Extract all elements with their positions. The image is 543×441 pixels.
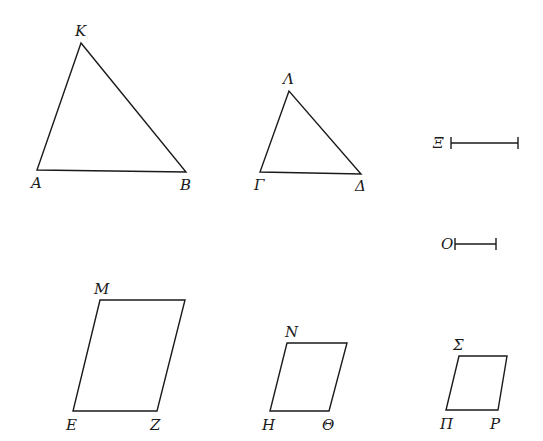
triangle-gamma-lambda-delta-outline [260, 91, 361, 174]
parallelogram-emz: M E Z [65, 280, 185, 434]
vertex-label-sigma: Σ [452, 336, 464, 354]
parallelogram-h-n-theta-outline [270, 343, 347, 411]
vertex-label-h: H [261, 416, 276, 434]
geometry-diagram: K A B Λ Γ Δ Ξ O M E Z N H Θ Σ Π P [0, 0, 543, 441]
triangle-akb-outline [37, 43, 186, 172]
segment-xi: Ξ [432, 134, 518, 152]
segment-xi-line [451, 137, 518, 149]
triangle-gamma-lambda-delta: Λ Γ Δ [253, 70, 366, 195]
parallelogram-pi-sigma-rho-outline [446, 356, 507, 410]
segment-label-xi: Ξ [432, 134, 444, 152]
triangle-akb: K A B [29, 22, 191, 194]
vertex-label-n: N [284, 323, 299, 341]
vertex-label-k: K [74, 22, 87, 40]
vertex-label-gamma: Γ [253, 176, 265, 194]
parallelogram-emz-outline [73, 300, 185, 411]
vertex-label-a: A [29, 174, 42, 192]
parallelogram-pi-sigma-rho: Σ Π P [439, 336, 507, 433]
vertex-label-theta: Θ [322, 416, 334, 434]
vertex-label-b: B [179, 176, 191, 194]
vertex-label-m: M [93, 280, 110, 298]
vertex-label-pi: Π [439, 415, 454, 433]
segment-label-o: O [441, 235, 453, 253]
vertex-label-delta: Δ [354, 177, 366, 195]
vertex-label-z: Z [149, 416, 161, 434]
parallelogram-h-n-theta: N H Θ [261, 323, 347, 434]
segment-o-line [455, 238, 496, 250]
vertex-label-e: E [65, 416, 77, 434]
vertex-label-rho: P [489, 415, 501, 433]
vertex-label-lambda: Λ [281, 70, 294, 88]
segment-o: O [441, 235, 496, 253]
